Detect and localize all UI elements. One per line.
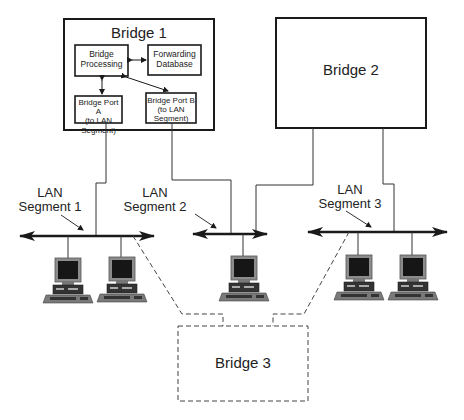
forwarding-database-label: Forwarding Database [148,50,201,70]
bridge-3-label: Bridge 3 [178,355,308,371]
bridge-port-b-label: Bridge Port B (to LAN Segment) [146,96,196,124]
lan-segment-1-label: LAN Segment 1 [10,186,90,213]
bridge-processing-label: Bridge Processing [75,50,128,70]
bridge-port-a-label: Bridge Port A (to LAN Segment) [75,98,122,135]
computer-icon [388,255,438,300]
computer-icon [43,258,93,303]
computer-icon [219,256,269,301]
lan-segment-2-label: LAN Segment 2 [110,186,200,213]
lan-segment-3-label: LAN Segment 3 [310,183,390,210]
computer-icon [334,255,384,300]
bridge-1-label: Bridge 1 [64,25,214,41]
bridge-2-label: Bridge 2 [276,62,426,78]
computer-icon [97,257,147,302]
